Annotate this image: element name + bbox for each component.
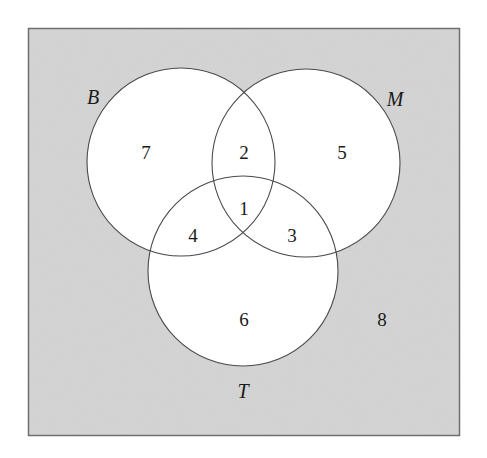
set-label-b: B: [87, 86, 99, 108]
region-outside: 8: [377, 309, 387, 330]
region-b-only: 7: [141, 142, 151, 163]
venn-diagram: B M T 7 2 5 1 4 3 6 8: [0, 0, 487, 458]
region-m-only: 5: [337, 142, 347, 163]
region-m-and-t-only: 3: [287, 225, 297, 246]
set-label-t: T: [237, 380, 250, 402]
region-b-m-t: 1: [239, 198, 249, 219]
set-label-m: M: [386, 88, 405, 110]
region-t-only: 6: [239, 309, 249, 330]
region-b-and-m-only: 2: [239, 142, 249, 163]
region-b-and-t-only: 4: [188, 225, 198, 246]
